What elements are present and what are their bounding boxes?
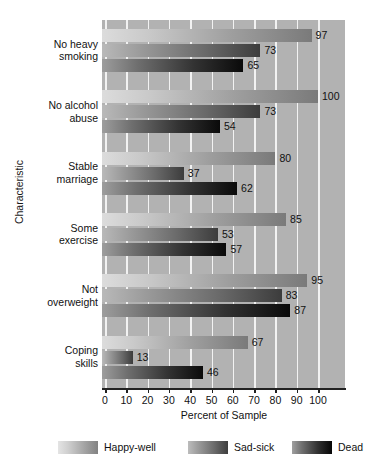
bar-group: 977365	[102, 20, 345, 81]
category-label-line: Coping	[0, 344, 98, 357]
bar	[102, 243, 226, 256]
bar-value-label: 83	[286, 289, 298, 302]
category-label-line: exercise	[0, 234, 98, 247]
category-label-line: No heavy	[0, 38, 98, 51]
x-tick-60	[233, 388, 235, 393]
bar	[102, 44, 260, 57]
legend-swatch	[292, 441, 332, 454]
bar	[102, 304, 290, 317]
x-tick-50	[212, 388, 214, 393]
bar-value-label: 57	[230, 243, 242, 256]
bar-value-label: 65	[247, 59, 259, 72]
bar	[102, 228, 218, 241]
bar-group: 803762	[102, 143, 345, 204]
x-tick-10	[126, 388, 128, 393]
category-label: Someexercise	[0, 222, 98, 247]
category-label-line: Some	[0, 222, 98, 235]
bar	[102, 182, 237, 195]
category-label-line: overweight	[0, 296, 98, 309]
x-tick-40	[190, 388, 192, 393]
legend-swatch	[58, 441, 98, 454]
bar-group: 671346	[102, 327, 345, 388]
legend-label: Sad-sick	[234, 440, 274, 455]
x-tick-label: 100	[303, 394, 333, 406]
bar-chart: Characteristic No heavysmokingNo alcohol…	[0, 0, 373, 470]
bar-group: 1007354	[102, 81, 345, 142]
bar	[102, 105, 260, 118]
bar	[102, 213, 286, 226]
legend-swatch	[188, 441, 228, 454]
bar-value-label: 73	[264, 44, 276, 57]
bar	[102, 351, 133, 364]
chart-legend: Happy-wellSad-sickDead	[0, 440, 373, 460]
x-tick-20	[148, 388, 150, 393]
bar	[102, 366, 203, 379]
category-label-line: marriage	[0, 173, 98, 186]
legend-label: Happy-well	[104, 440, 156, 455]
bar	[102, 120, 220, 133]
x-axis-line	[102, 388, 346, 390]
bar-group: 958387	[102, 265, 345, 326]
x-tick-30	[169, 388, 171, 393]
bar	[102, 336, 248, 349]
bar-value-label: 67	[252, 336, 264, 349]
category-label-line: abuse	[0, 112, 98, 125]
x-tick-100	[318, 388, 320, 393]
bar-value-label: 53	[222, 228, 234, 241]
legend-label: Dead	[338, 440, 363, 455]
x-tick-0	[105, 388, 107, 393]
bar	[102, 274, 307, 287]
bar	[102, 152, 275, 165]
category-label-line: skills	[0, 357, 98, 370]
bar-value-label: 97	[316, 29, 328, 42]
category-label-line: Not	[0, 283, 98, 296]
bar-value-label: 62	[241, 182, 253, 195]
bar	[102, 289, 282, 302]
category-label-line: Stable	[0, 160, 98, 173]
category-label: No alcoholabuse	[0, 99, 98, 124]
bar-value-label: 80	[279, 152, 291, 165]
bar-value-label: 54	[224, 120, 236, 133]
bar-value-label: 73	[264, 105, 276, 118]
bar	[102, 167, 184, 180]
plot-area: 9773651007354803762855357958387671346	[102, 20, 345, 388]
bar	[102, 29, 312, 42]
y-axis-category-labels: No heavysmokingNo alcoholabuseStablemarr…	[0, 20, 98, 388]
bar-value-label: 46	[207, 366, 219, 379]
bar-value-label: 37	[188, 167, 200, 180]
category-label: Notoverweight	[0, 283, 98, 308]
x-tick-70	[254, 388, 256, 393]
bar	[102, 59, 243, 72]
bar-group: 855357	[102, 204, 345, 265]
category-label-line: No alcohol	[0, 99, 98, 112]
bar-value-label: 100	[322, 90, 340, 103]
bar-value-label: 87	[294, 304, 306, 317]
category-label: Stablemarriage	[0, 160, 98, 185]
category-label-line: smoking	[0, 50, 98, 63]
category-label: Copingskills	[0, 344, 98, 369]
bar-value-label: 13	[137, 351, 149, 364]
bar-value-label: 95	[311, 274, 323, 287]
x-tick-90	[297, 388, 299, 393]
bar-value-label: 85	[290, 213, 302, 226]
bar	[102, 90, 318, 103]
x-tick-80	[275, 388, 277, 393]
x-axis-title: Percent of Sample	[102, 409, 346, 421]
category-label: No heavysmoking	[0, 38, 98, 63]
